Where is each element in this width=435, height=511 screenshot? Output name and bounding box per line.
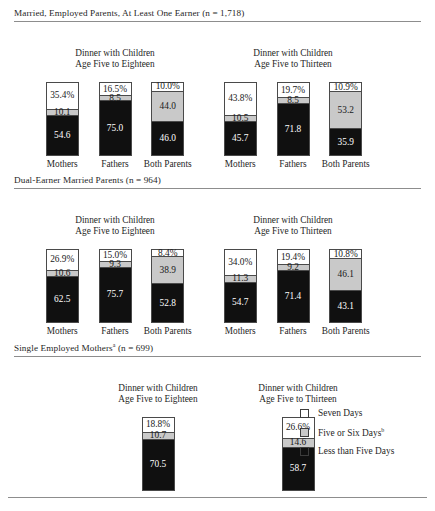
section-header-footnote-marker: a <box>113 342 116 348</box>
segment-less-than-five-days: 52.8 <box>152 284 183 322</box>
x-axis-label: Fathers <box>86 326 145 336</box>
bar-column[interactable]: 8.4%38.952.8Both Parents <box>151 249 184 336</box>
x-axis-label: Both Parents <box>316 159 375 169</box>
x-axis-label: Mothers <box>33 326 92 336</box>
stacked-bar[interactable]: 18.8%10.770.5 <box>142 417 175 491</box>
segment-less-than-five-days: 54.7 <box>225 283 256 322</box>
segment-seven-days-value: 35.4% <box>50 91 74 100</box>
segment-seven-days: 26.9% <box>47 250 78 269</box>
bar-column[interactable]: 18.8%10.770.5 <box>142 417 175 491</box>
bar-column[interactable]: 19.4%9.271.4Fathers <box>277 249 310 336</box>
legend-item-1[interactable]: Seven Days <box>300 408 394 418</box>
bar-column[interactable]: 19.7%8.571.8Fathers <box>277 82 310 169</box>
panel-title: Dinner with ChildrenAge Five to Eighteen <box>26 48 204 71</box>
stacked-bar[interactable]: 19.7%8.571.8 <box>277 82 310 156</box>
segment-less-than-five-days-value: 71.4 <box>285 292 301 301</box>
legend-label: Less than Five Days <box>318 446 394 456</box>
bar-column[interactable]: 43.8%10.545.7Mothers <box>224 82 257 169</box>
stacked-bar[interactable]: 8.4%38.952.8 <box>151 249 184 323</box>
segment-five-or-six-days: 44.0 <box>152 91 183 123</box>
segment-seven-days: 43.8% <box>225 83 256 115</box>
bar-column[interactable]: 34.0%11.354.7Mothers <box>224 249 257 336</box>
bar-row: 43.8%10.545.7Mothers19.7%8.571.8Fathers1… <box>204 82 382 174</box>
stacked-bar[interactable]: 10.0%44.046.0 <box>151 82 184 156</box>
segment-less-than-five-days: 75.0 <box>100 101 131 155</box>
segment-less-than-five-days: 71.8 <box>278 104 309 156</box>
panel-title: Dinner with ChildrenAge Five to Thirteen <box>228 383 368 406</box>
bar-row: 34.0%11.354.7Mothers19.4%9.271.4Fathers1… <box>204 249 382 341</box>
segment-less-than-five-days: 46.0 <box>152 122 183 155</box>
panel-title-line2: Age Five to Eighteen <box>26 226 204 237</box>
bar-row: 26.9%10.662.5Mothers15.0%9.375.7Fathers8… <box>26 249 204 341</box>
x-axis-label: Fathers <box>264 326 323 336</box>
panel-title-line1: Dinner with Children <box>204 215 382 226</box>
stacked-bar[interactable]: 34.0%11.354.7 <box>224 249 257 323</box>
bar-row: 35.4%10.154.6Mothers16.5%8.575.0Fathers1… <box>26 82 204 174</box>
bar-column[interactable]: 10.9%53.235.9Both Parents <box>329 82 362 169</box>
bar-column[interactable]: 16.5%8.575.0Fathers <box>99 82 132 169</box>
panel-title-line1: Dinner with Children <box>26 48 204 59</box>
bar-column[interactable]: 10.8%46.143.1Both Parents <box>329 249 362 336</box>
panel-title-line2: Age Five to Eighteen <box>88 394 228 405</box>
panel-title-line2: Age Five to Thirteen <box>228 394 368 405</box>
segment-five-or-six-days: 9.2 <box>278 264 309 271</box>
stacked-bar[interactable]: 26.9%10.662.5 <box>46 249 79 323</box>
legend-label: Seven Days <box>318 408 363 418</box>
x-axis-label: Fathers <box>86 159 145 169</box>
legend-item-3[interactable]: Less than Five Days <box>300 446 394 456</box>
segment-five-or-six-days-value: 53.2 <box>338 106 354 115</box>
segment-less-than-five-days: 71.4 <box>278 271 309 322</box>
segment-less-than-five-days: 45.7 <box>225 122 256 155</box>
panel-title-line1: Dinner with Children <box>228 383 368 394</box>
segment-five-or-six-days-value: 38.9 <box>160 266 176 275</box>
x-axis-label: Fathers <box>264 159 323 169</box>
bar-column[interactable]: 15.0%9.375.7Fathers <box>99 249 132 336</box>
segment-seven-days: 10.9% <box>330 83 361 91</box>
section-divider <box>14 188 421 189</box>
segment-less-than-five-days-value: 54.6 <box>54 131 70 140</box>
legend-swatch-icon <box>300 409 309 418</box>
x-axis-label: Both Parents <box>138 159 197 169</box>
segment-five-or-six-days: 10.1 <box>47 109 78 116</box>
segment-less-than-five-days: 70.5 <box>143 440 174 491</box>
segment-less-than-five-days-value: 62.5 <box>54 295 70 304</box>
figure-root: Married, Employed Parents, At Least One … <box>0 0 435 511</box>
segment-less-than-five-days: 62.5 <box>47 277 78 322</box>
segment-less-than-five-days-value: 35.9 <box>338 138 354 147</box>
stacked-bar[interactable]: 43.8%10.545.7 <box>224 82 257 156</box>
segment-less-than-five-days-value: 58.7 <box>290 464 306 473</box>
panel-1: Dinner with ChildrenAge Five to Eighteen… <box>88 383 228 510</box>
panel-2: Dinner with ChildrenAge Five to Thirteen… <box>204 215 382 342</box>
footer-divider <box>8 497 427 498</box>
stacked-bar[interactable]: 15.0%9.375.7 <box>99 249 132 323</box>
bar-column[interactable]: 35.4%10.154.6Mothers <box>46 82 79 169</box>
x-axis-label: Mothers <box>211 326 270 336</box>
segment-less-than-five-days-value: 52.8 <box>160 299 176 308</box>
stacked-bar[interactable]: 10.9%53.235.9 <box>329 82 362 156</box>
legend-item-2[interactable]: Five or Six Daysb <box>300 427 394 438</box>
segment-seven-days: 10.8% <box>330 250 361 258</box>
legend-label: Five or Six Daysb <box>318 427 384 438</box>
stacked-bar[interactable]: 16.5%8.575.0 <box>99 82 132 156</box>
panel-title-line1: Dinner with Children <box>204 48 382 59</box>
bar-column[interactable]: 10.0%44.046.0Both Parents <box>151 82 184 169</box>
stacked-bar[interactable]: 19.4%9.271.4 <box>277 249 310 323</box>
stacked-bar[interactable]: 10.8%46.143.1 <box>329 249 362 323</box>
x-axis-label: Mothers <box>33 159 92 169</box>
panel-title-line2: Age Five to Thirteen <box>204 226 382 237</box>
legend-swatch-icon <box>300 447 309 456</box>
panel-title-line1: Dinner with Children <box>88 383 228 394</box>
section-header: Married, Employed Parents, At Least One … <box>0 8 435 18</box>
chart-section-2: Dual-Earner Married Parents (n = 964)Din… <box>0 175 435 189</box>
segment-seven-days-value: 18.8% <box>146 420 170 429</box>
panel-title-line2: Age Five to Eighteen <box>26 59 204 70</box>
segment-five-or-six-days: 10.5 <box>225 115 256 123</box>
stacked-bar[interactable]: 35.4%10.154.6 <box>46 82 79 156</box>
bar-column[interactable]: 26.9%10.662.5Mothers <box>46 249 79 336</box>
segment-less-than-five-days: 43.1 <box>330 291 361 322</box>
segment-five-or-six-days-value: 44.0 <box>160 102 176 111</box>
panel-1: Dinner with ChildrenAge Five to Eighteen… <box>26 48 204 175</box>
segment-five-or-six-days: 10.6 <box>47 270 78 278</box>
chart-section-1: Married, Employed Parents, At Least One … <box>0 8 435 22</box>
segment-seven-days: 10.0% <box>152 83 183 90</box>
